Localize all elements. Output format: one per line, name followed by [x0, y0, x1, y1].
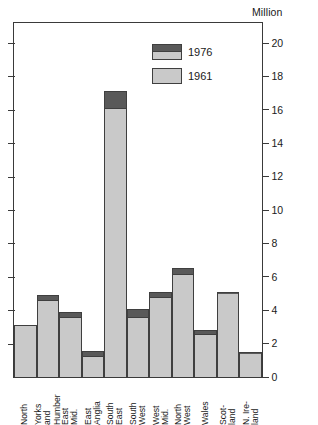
x-axis-category-label: SouthEast [106, 381, 125, 425]
bar[interactable] [59, 312, 82, 377]
x-axis-label-line: North [21, 381, 30, 425]
x-axis-category-label: NorthWest [174, 381, 193, 425]
legend-item-1961: 1961 [152, 68, 252, 84]
y-axis-tick-label: 16 [272, 104, 284, 115]
y-axis-tick-label: 20 [272, 37, 284, 48]
x-axis-label-line: land [228, 381, 237, 425]
bar-slot [82, 23, 105, 377]
x-axis-category-label: SouthWest [129, 381, 148, 425]
bar[interactable] [172, 268, 195, 377]
x-axis-category-label: YorksandHumber [34, 381, 62, 425]
bar-slot [127, 23, 150, 377]
x-axis-label-line: East [115, 381, 124, 425]
x-axis-category-label: Scot-land [219, 381, 238, 425]
bar-segment-1961 [218, 294, 239, 377]
y-axis-tick-mark [263, 76, 269, 77]
x-axis-category-label: Wales [201, 381, 210, 425]
legend-item-1976: 1976 [152, 44, 252, 60]
y-axis-tick-mark [263, 176, 269, 177]
legend-swatch-1976 [152, 44, 182, 60]
x-axis-label-slot: EastMid. [59, 381, 82, 425]
bar-slot [37, 23, 60, 377]
y-axis-tick-label: 10 [272, 204, 284, 215]
bar-segment-1961 [150, 298, 171, 377]
bar[interactable] [149, 292, 172, 377]
legend-label-1961: 1961 [188, 71, 212, 82]
bar[interactable] [194, 330, 217, 377]
x-axis-label-slot: N. Ire-land [239, 381, 262, 425]
bar-segment-1976 [128, 310, 149, 318]
bar[interactable] [37, 295, 60, 377]
y-axis-tick-label: 8 [272, 238, 278, 249]
x-axis-category-label: WestMid. [151, 381, 170, 425]
bar[interactable] [104, 91, 127, 377]
x-axis-label-slot: WestMid. [149, 381, 172, 425]
x-axis-category-label: EastMid. [61, 381, 80, 425]
bar-segment-1961 [38, 301, 59, 377]
bar[interactable] [82, 351, 105, 377]
y-axis-tick-label: 6 [272, 271, 278, 282]
bar-segment-1961 [128, 318, 149, 377]
y-axis-tick-mark [263, 377, 269, 378]
bar-segment-1961 [83, 357, 104, 377]
x-axis-label-line: Mid. [161, 381, 170, 425]
bar-slot [59, 23, 82, 377]
legend-swatch-1961 [152, 68, 182, 84]
y-axis-tick-label: 18 [272, 71, 284, 82]
y-axis-right: 02468101214161820 [263, 22, 318, 378]
x-axis-label-line: Mid. [70, 381, 79, 425]
x-axis-label-slot: Scot-land [217, 381, 240, 425]
x-axis-label-slot: SouthEast [104, 381, 127, 425]
x-axis-label-slot: Wales [194, 381, 217, 425]
bar-segment-1961 [15, 326, 36, 377]
bar-segment-1961 [105, 109, 126, 377]
x-axis-label-line: Anglia [93, 381, 102, 425]
bar[interactable] [239, 352, 262, 377]
y-axis-tick-mark [263, 310, 269, 311]
x-axis-label-slot: NorthWest [172, 381, 195, 425]
y-axis-unit-caption: Million [252, 6, 282, 18]
legend-label-1976: 1976 [188, 47, 212, 58]
y-axis-tick-mark [263, 276, 269, 277]
y-axis-tick-mark [263, 243, 269, 244]
y-axis-tick-mark [263, 343, 269, 344]
bar-segment-1961 [60, 318, 81, 377]
x-axis-category-labels: NorthYorksandHumberEastMid.EastAngliaSou… [14, 381, 262, 425]
x-axis-category-label: EastAnglia [84, 381, 103, 425]
y-axis-tick-label: 0 [272, 371, 278, 382]
y-axis-tick-mark [263, 143, 269, 144]
bar[interactable] [127, 309, 150, 377]
y-axis-tick-mark [263, 210, 269, 211]
bar-segment-1961 [173, 275, 194, 377]
x-axis-label-slot: EastAnglia [82, 381, 105, 425]
x-axis-label-slot: YorksandHumber [37, 381, 60, 425]
x-axis-label-line: land [251, 381, 260, 425]
x-axis-label-line: West [183, 381, 192, 425]
x-axis-label-line: West [138, 381, 147, 425]
bar-segment-1976 [105, 92, 126, 109]
x-axis-label-slot: SouthWest [127, 381, 150, 425]
x-axis-category-label: N. Ire-land [241, 381, 260, 425]
x-axis-category-label: North [21, 381, 30, 425]
y-axis-tick-label: 12 [272, 171, 284, 182]
bar-slot [104, 23, 127, 377]
y-axis-tick-mark [263, 109, 269, 110]
y-axis-tick-label: 14 [272, 137, 284, 148]
bar-segment-1961 [195, 335, 216, 377]
y-axis-tick-label: 4 [272, 304, 278, 315]
bar-segment-1961 [240, 354, 261, 377]
x-axis-label-line: Wales [201, 381, 210, 425]
y-axis-tick-mark [263, 43, 269, 44]
bar[interactable] [217, 292, 240, 377]
bar[interactable] [14, 325, 37, 377]
chart-legend: 1976 1961 [152, 44, 252, 92]
bar-slot [14, 23, 37, 377]
y-axis-tick-label: 2 [272, 338, 278, 349]
bar-chart: Million 02468101214161820 1976 1961 Nort… [0, 0, 318, 425]
